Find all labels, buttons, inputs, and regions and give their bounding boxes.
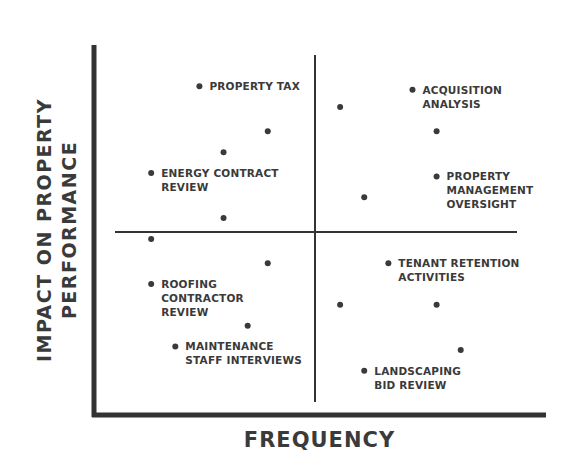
point-label: ROOFING CONTRACTOR REVIEW: [161, 277, 244, 319]
data-point: [148, 281, 154, 287]
plot-area: [0, 0, 581, 466]
data-point: [361, 368, 367, 374]
point-label: ACQUISITION ANALYSIS: [422, 83, 502, 111]
data-point: [221, 215, 227, 221]
data-point: [434, 302, 440, 308]
data-point: [265, 260, 271, 266]
data-point: [148, 236, 154, 242]
point-label: PROPERTY TAX: [209, 79, 300, 93]
data-point: [361, 194, 367, 200]
data-point: [221, 149, 227, 155]
data-point: [245, 323, 251, 329]
data-point: [434, 173, 440, 179]
point-label: ENERGY CONTRACT REVIEW: [161, 166, 279, 194]
data-point: [385, 260, 391, 266]
x-axis-title: FREQUENCY: [94, 428, 545, 452]
data-points: [148, 83, 464, 374]
data-point: [265, 128, 271, 134]
point-label: LANDSCAPING BID REVIEW: [374, 364, 461, 392]
data-point: [409, 87, 415, 93]
data-point: [337, 302, 343, 308]
data-point: [148, 170, 154, 176]
quadrant-chart: PROPERTY TAXACQUISITION ANALYSISENERGY C…: [0, 0, 581, 466]
point-label: TENANT RETENTION ACTIVITIES: [398, 256, 519, 284]
point-label: PROPERTY MANAGEMENT OVERSIGHT: [447, 169, 534, 211]
data-point: [458, 347, 464, 353]
data-point: [337, 104, 343, 110]
data-point: [434, 128, 440, 134]
data-point: [172, 343, 178, 349]
point-label: MAINTENANCE STAFF INTERVIEWS: [185, 339, 302, 367]
data-point: [196, 83, 202, 89]
